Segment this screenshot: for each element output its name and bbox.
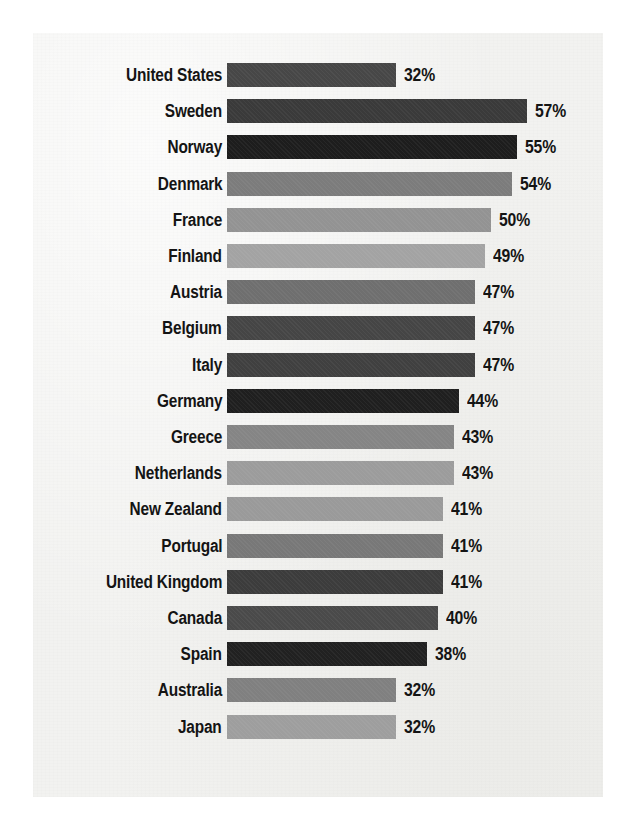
bar: [227, 316, 475, 340]
bar-row: Austria47%: [0, 279, 634, 305]
bar-chart-plot-area: United States32%Sweden57%Norway55%Denmar…: [0, 0, 634, 832]
category-label: Germany: [156, 388, 222, 414]
bar: [227, 461, 454, 485]
bar-value-label: 50%: [499, 207, 530, 233]
category-label: Belgium: [162, 315, 222, 341]
bar: [227, 715, 396, 739]
bar-value-label: 43%: [462, 424, 493, 450]
bar-value-label: 44%: [467, 388, 498, 414]
bar-row: Canada40%: [0, 605, 634, 631]
bar-row: Norway55%: [0, 134, 634, 160]
bar-row: United States32%: [0, 62, 634, 88]
bar-row: Spain38%: [0, 641, 634, 667]
bar-value-label: 47%: [483, 315, 514, 341]
bar-value-label: 49%: [493, 243, 524, 269]
bar: [227, 678, 396, 702]
bar: [227, 534, 443, 558]
category-label: Canada: [167, 605, 222, 631]
bar: [227, 497, 443, 521]
bar-row: New Zealand41%: [0, 496, 634, 522]
bar-value-label: 41%: [451, 533, 482, 559]
bar-row: Finland49%: [0, 243, 634, 269]
bar-value-label: 41%: [451, 496, 482, 522]
category-label: United States: [126, 62, 222, 88]
bar-row: Sweden57%: [0, 98, 634, 124]
bar-value-label: 40%: [446, 605, 477, 631]
bar-value-label: 55%: [525, 134, 556, 160]
category-label: Australia: [158, 677, 222, 703]
bar: [227, 389, 459, 413]
bar-value-label: 47%: [483, 352, 514, 378]
category-label: Italy: [192, 352, 222, 378]
bar: [227, 63, 396, 87]
bar-row: Germany44%: [0, 388, 634, 414]
bar-row: Australia32%: [0, 677, 634, 703]
bar: [227, 135, 517, 159]
category-label: Japan: [178, 714, 222, 740]
bar-row: Denmark54%: [0, 171, 634, 197]
category-label: New Zealand: [130, 496, 222, 522]
bar-row: Portugal41%: [0, 533, 634, 559]
bar-value-label: 32%: [404, 714, 435, 740]
bar: [227, 244, 485, 268]
bar: [227, 642, 427, 666]
bar: [227, 99, 527, 123]
bar-row: France50%: [0, 207, 634, 233]
bar-row: Greece43%: [0, 424, 634, 450]
category-label: France: [173, 207, 222, 233]
category-label: Netherlands: [135, 460, 222, 486]
bar: [227, 172, 512, 196]
category-label: Spain: [181, 641, 222, 667]
bar-row: Japan32%: [0, 714, 634, 740]
category-label: Sweden: [165, 98, 222, 124]
bar-value-label: 32%: [404, 62, 435, 88]
category-label: Greece: [171, 424, 222, 450]
bar-value-label: 57%: [535, 98, 566, 124]
bar: [227, 208, 491, 232]
bar-row: United Kingdom41%: [0, 569, 634, 595]
bar-value-label: 32%: [404, 677, 435, 703]
category-label: Finland: [168, 243, 222, 269]
category-label: Portugal: [161, 533, 222, 559]
bar: [227, 425, 454, 449]
bar-row: Italy47%: [0, 352, 634, 378]
bar-row: Belgium47%: [0, 315, 634, 341]
bar-value-label: 38%: [435, 641, 466, 667]
bar-row: Netherlands43%: [0, 460, 634, 486]
category-label: Denmark: [157, 171, 222, 197]
bar: [227, 280, 475, 304]
bar-value-label: 54%: [520, 171, 551, 197]
bar: [227, 570, 443, 594]
bar-value-label: 43%: [462, 460, 493, 486]
bar: [227, 353, 475, 377]
bar-value-label: 47%: [483, 279, 514, 305]
bar: [227, 606, 438, 630]
category-label: United Kingdom: [106, 569, 222, 595]
category-label: Austria: [170, 279, 222, 305]
category-label: Norway: [167, 134, 222, 160]
bar-value-label: 41%: [451, 569, 482, 595]
chart-figure: United States32%Sweden57%Norway55%Denmar…: [0, 0, 634, 832]
